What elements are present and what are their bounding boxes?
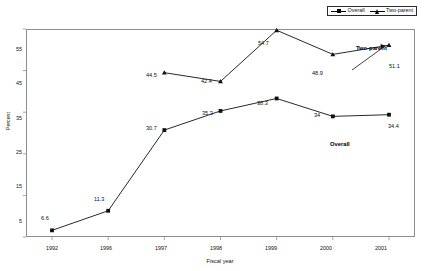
legend-item-overall: Overall [331,8,365,14]
data-label-two-parent-1997: 44.5 [146,72,157,78]
chart-legend: Overall Two-parent [327,6,417,16]
data-label-overall-1997: 30.7 [146,125,157,131]
x-tick-1998: 1998 [196,245,236,251]
legend-label-two-parent: Two-parent [386,8,413,13]
data-label-overall-1998: 35.3 [202,110,213,116]
data-label-two-parent-2001: 51.1 [389,63,400,69]
y-tick-45: 45 [6,80,22,86]
x-tick-1997: 1997 [141,245,181,251]
x-axis-label: Fiscal year [180,258,260,264]
y-axis-label: Percent [5,101,11,141]
data-label-overall-1999: 38.3 [257,100,268,106]
y-tick-5: 5 [6,218,22,224]
data-label-overall-1992: 6.6 [41,215,49,221]
data-label-two-parent-1999: 54.7 [258,40,269,46]
square-marker-icon [331,8,346,14]
data-label-overall-2001: 34.4 [388,123,399,129]
y-tick-15: 15 [6,183,22,189]
x-tick-1992: 1992 [32,245,72,251]
legend-item-two-parent: Two-parent [370,8,413,14]
series-annotation-two-parent: Two-parent [356,45,387,51]
y-tick-25: 25 [6,149,22,155]
x-tick-2001: 2001 [361,245,401,251]
legend-label-overall: Overall [348,8,365,13]
series-annotation-overall: Overall [330,141,350,147]
plot-area-frame [26,29,415,237]
data-label-overall-2000: 34 [314,112,320,118]
x-tick-1996: 1996 [86,245,126,251]
data-label-two-parent-1998: 42.4 [201,78,212,84]
triangle-marker-icon [370,8,385,14]
data-label-two-parent-2000: 48.9 [312,70,323,76]
x-tick-1999: 1999 [251,245,291,251]
line-chart-figure: Overall Two-parent 55 45 35 25 15 5 Perc… [0,0,430,271]
x-tick-2000: 2000 [306,245,346,251]
y-tick-55: 55 [6,46,22,52]
data-label-overall-1996: 11.3 [94,196,104,202]
